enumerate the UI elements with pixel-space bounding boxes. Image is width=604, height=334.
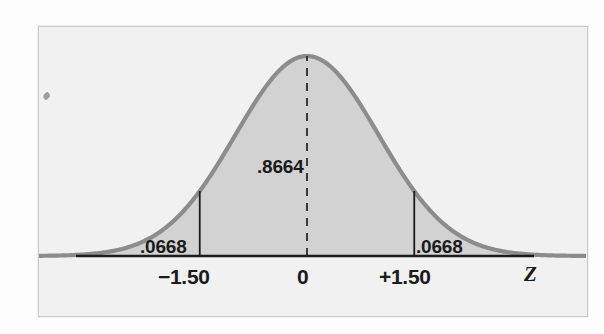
- x-axis-title: Z: [524, 264, 537, 285]
- x-tick-label-positive-1-50: +1.50: [379, 266, 431, 287]
- center-area-label: .8664: [257, 157, 304, 176]
- x-tick-label-negative-1-50: −1.50: [158, 266, 210, 287]
- right-tail-area-label: .0668: [416, 237, 463, 256]
- x-tick-label-zero: 0: [297, 266, 308, 287]
- left-tail-area-label: .0668: [140, 237, 187, 256]
- figure-canvas: .8664 .0668 .0668 −1.50 0 +1.50 Z: [0, 0, 604, 334]
